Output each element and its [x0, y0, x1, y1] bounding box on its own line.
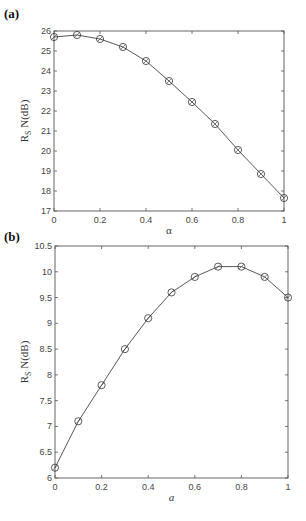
y-tick-label: 20: [41, 146, 51, 156]
panel-label: (b): [4, 229, 20, 244]
y-tick-label: 8: [47, 370, 52, 380]
y-tick-label: 10: [42, 267, 52, 277]
plot-frame: [55, 246, 288, 478]
y-tick-label: 9.5: [39, 293, 52, 303]
x-tick-label: 0.4: [140, 215, 153, 225]
x-tick-label: 0: [52, 482, 57, 492]
panel-label: (a): [4, 6, 19, 21]
x-tick-label: 0.6: [186, 215, 199, 225]
y-tick-label: 8.5: [39, 344, 52, 354]
chart-panel-a: 00.20.40.60.8117181920212223242526(a)RS …: [4, 6, 288, 236]
y-tick-label: 6: [47, 473, 52, 483]
y-tick-label: 19: [41, 166, 51, 176]
plot-frame: [54, 31, 284, 211]
y-tick-label: 9: [47, 318, 52, 328]
x-axis-label: α: [166, 224, 172, 236]
y-tick-label: 23: [41, 86, 51, 96]
y-tick-label: 6.5: [39, 447, 52, 457]
x-tick-label: 0.2: [95, 482, 108, 492]
y-tick-label: 7.5: [39, 396, 52, 406]
x-tick-label: 1: [285, 482, 290, 492]
x-tick-label: 0.8: [232, 215, 245, 225]
x-tick-label: 0: [51, 215, 56, 225]
y-tick-label: 18: [41, 186, 51, 196]
x-tick-label: 0.2: [94, 215, 107, 225]
x-tick-label: 0.6: [189, 482, 202, 492]
y-tick-label: 25: [41, 46, 51, 56]
figure: 00.20.40.60.8117181920212223242526(a)RS …: [0, 0, 306, 521]
x-tick-label: 0.4: [142, 482, 155, 492]
y-tick-label: 21: [41, 126, 51, 136]
chart-panel-b: 00.20.40.60.8166.577.588.599.51010.5(b)R…: [4, 229, 292, 503]
x-tick-label: 0.8: [235, 482, 248, 492]
y-axis-label: RS N(dB): [18, 99, 33, 142]
x-tick-label: 1: [281, 215, 286, 225]
y-tick-label: 26: [41, 26, 51, 36]
y-tick-label: 22: [41, 106, 51, 116]
y-tick-label: 17: [41, 206, 51, 216]
y-tick-label: 10.5: [34, 241, 52, 251]
y-tick-label: 24: [41, 66, 51, 76]
x-axis-label: a: [169, 491, 175, 503]
data-line: [55, 267, 288, 468]
y-axis-label: RS N(dB): [18, 340, 33, 383]
y-tick-label: 7: [47, 421, 52, 431]
data-line: [54, 35, 284, 198]
